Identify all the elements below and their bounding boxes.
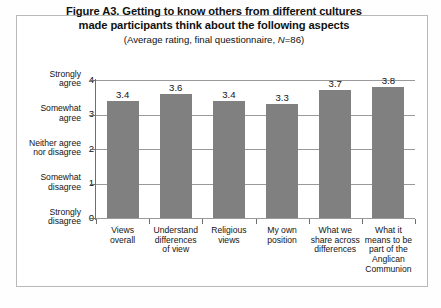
plot-area: [96, 80, 415, 218]
y-axis-label-1: Somewhatdisagree1: [18, 173, 94, 192]
subtitle-after: =86): [285, 34, 304, 45]
gridline-2: [96, 149, 415, 150]
y-axis-label-text-4: Stronglyagree: [49, 70, 81, 89]
y-axis-label-text-0: Stronglydisagree: [48, 208, 81, 227]
y-axis-label-text-2: Neither agreenor disagree: [29, 139, 81, 158]
y-axis-label-4: Stronglyagree4: [18, 70, 94, 89]
y-axis-label-0: Stronglydisagree0: [18, 208, 94, 227]
x-tick-mark-3: [256, 219, 257, 224]
subtitle-before: (Average rating, final questionnaire,: [124, 34, 278, 45]
bar: [213, 101, 245, 218]
x-axis-category-label: Understanddifferencesof view: [149, 226, 202, 255]
bar-value-label: 3.8: [368, 75, 408, 86]
x-tick-mark-4: [309, 219, 310, 224]
bar-value-label: 3.4: [103, 89, 143, 100]
y-axis-label-text-3: Somewhatagree: [40, 104, 81, 123]
bar-value-label: 3.7: [315, 78, 355, 89]
x-tick-mark-5: [362, 219, 363, 224]
chart-subtitle: (Average rating, final questionnaire, N=…: [18, 33, 410, 46]
bar: [160, 94, 192, 218]
x-tick-mark-1: [149, 219, 150, 224]
x-axis-category-label: What weshare acrossdifferences: [309, 226, 362, 255]
x-axis-category-label: What itmeans to bepart of theAnglicanCom…: [362, 226, 415, 275]
bar-value-label: 3.4: [209, 89, 249, 100]
x-tick-mark-6: [415, 219, 416, 224]
bar: [107, 101, 139, 218]
gridline-0: [96, 218, 415, 219]
subtitle-n-italic: N: [278, 34, 285, 45]
x-tick-mark-2: [202, 219, 203, 224]
x-axis-category-label: Religiousviews: [202, 226, 255, 245]
figure-container: Figure A3. Getting to know others from d…: [0, 0, 441, 308]
bar: [372, 87, 404, 218]
y-axis-label-3: Somewhatagree3: [18, 104, 94, 123]
gridline-3: [96, 115, 415, 116]
title-block: Figure A3. Getting to know others from d…: [18, 5, 410, 46]
x-axis-category-label: My ownposition: [256, 226, 309, 245]
bar-value-label: 3.3: [262, 92, 302, 103]
bar: [266, 104, 298, 218]
y-axis-label-text-1: Somewhatdisagree: [40, 173, 81, 192]
chart-title-line-1: Figure A3. Getting to know others from d…: [18, 5, 410, 19]
y-axis-label-2: Neither agreenor disagree2: [18, 139, 94, 158]
bar: [319, 90, 351, 218]
chart-title-line-2: made participants think about the follow…: [18, 19, 410, 33]
gridline-1: [96, 184, 415, 185]
gridline-4: [96, 80, 415, 81]
x-tick-mark-0: [96, 219, 97, 224]
x-axis-category-label: Viewsoverall: [96, 226, 149, 245]
bar-value-label: 3.6: [156, 82, 196, 93]
